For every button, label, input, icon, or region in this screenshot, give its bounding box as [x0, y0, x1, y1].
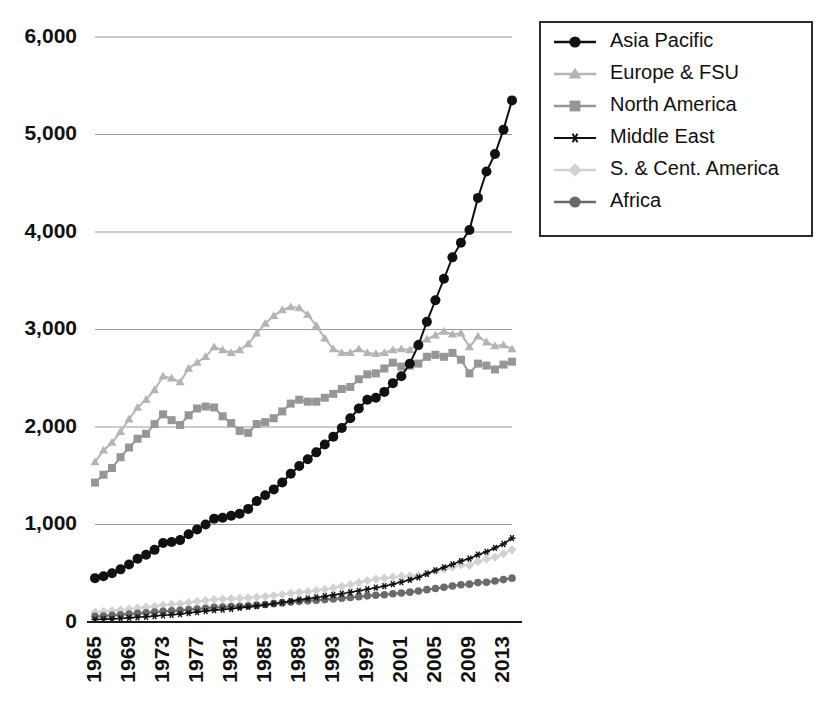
data-point-marker: [490, 149, 500, 159]
data-point-marker: [398, 589, 406, 597]
chart-legend: Asia PacificEurope & FSUNorth AmericaMid…: [540, 22, 812, 236]
data-point-marker: [90, 573, 100, 583]
data-point-marker: [218, 513, 228, 523]
data-point-marker: [227, 594, 236, 603]
series-africa: [91, 574, 516, 620]
data-point-marker: [193, 404, 201, 412]
data-point-marker: [456, 238, 466, 248]
data-point-marker: [193, 358, 202, 366]
data-point-marker: [499, 361, 507, 369]
data-point-marker: [481, 167, 491, 177]
x-axis-tick-label: 2013: [490, 636, 513, 683]
data-point-marker: [227, 419, 235, 427]
data-point-marker: [473, 332, 482, 340]
data-point-marker: [107, 568, 117, 578]
data-point-marker: [491, 577, 499, 585]
data-point-marker: [158, 538, 168, 548]
data-point-marker: [270, 414, 278, 422]
x-axis-tick-label: 1969: [116, 636, 139, 683]
data-point-marker: [355, 593, 363, 601]
data-point-marker: [473, 557, 482, 566]
x-axis-tick-label: 1965: [82, 636, 105, 683]
data-point-marker: [474, 579, 482, 587]
data-point-marker: [329, 595, 337, 603]
data-point-marker: [329, 583, 338, 592]
data-point-marker: [193, 597, 202, 606]
data-point-marker: [261, 418, 269, 426]
data-point-marker: [499, 549, 508, 558]
data-point-marker: [201, 596, 210, 605]
data-point-marker: [320, 440, 330, 450]
x-axis-tick-label: 2005: [422, 636, 445, 683]
data-point-marker: [354, 578, 363, 587]
data-point-marker: [449, 582, 457, 590]
series-s-cent-america: [90, 545, 516, 617]
data-point-marker: [371, 393, 381, 403]
data-point-marker: [379, 387, 389, 397]
data-point-marker: [117, 453, 125, 461]
data-point-marker: [362, 395, 372, 405]
data-point-marker: [570, 101, 581, 112]
data-point-marker: [295, 396, 303, 404]
data-point-marker: [364, 592, 372, 600]
data-point-marker: [473, 193, 483, 203]
data-point-marker: [235, 509, 245, 519]
x-axis-tick-label: 1973: [150, 636, 173, 683]
data-point-marker: [482, 555, 491, 564]
data-point-marker: [286, 302, 295, 310]
data-point-marker: [397, 572, 406, 581]
data-point-marker: [286, 589, 295, 598]
data-point-marker: [278, 590, 287, 599]
data-point-marker: [363, 370, 371, 378]
data-point-marker: [124, 559, 134, 569]
data-point-marker: [158, 372, 167, 380]
data-point-marker: [372, 369, 380, 377]
data-point-marker: [372, 585, 379, 591]
data-point-marker: [269, 311, 278, 319]
data-point-marker: [261, 592, 270, 601]
data-point-marker: [210, 404, 218, 412]
data-point-marker: [278, 407, 286, 415]
data-point-marker: [338, 385, 346, 393]
data-point-marker: [218, 594, 227, 603]
y-axis-tick-label: 0: [65, 609, 77, 632]
y-axis-tick-labels: 01,0002,0003,0004,0005,0006,000: [24, 24, 77, 632]
data-point-marker: [423, 586, 431, 594]
y-axis-tick-label: 2,000: [24, 414, 77, 437]
data-point-marker: [303, 454, 313, 464]
data-point-marker: [286, 469, 296, 479]
data-point-marker: [440, 353, 448, 361]
legend-label: Asia Pacific: [610, 29, 713, 51]
y-axis-tick-label: 3,000: [24, 316, 77, 339]
data-point-marker: [380, 365, 388, 373]
data-point-marker: [243, 504, 253, 514]
data-point-marker: [499, 341, 508, 349]
data-point-marker: [287, 400, 295, 408]
data-point-marker: [277, 478, 287, 488]
data-point-marker: [328, 432, 338, 442]
legend-label: North America: [610, 93, 738, 115]
line-chart: 01,0002,0003,0004,0005,0006,000 19651969…: [0, 0, 817, 704]
data-point-marker: [389, 359, 397, 367]
data-point-marker: [159, 410, 167, 418]
data-point-marker: [312, 586, 321, 595]
data-point-marker: [482, 362, 490, 370]
legend-label: S. & Cent. America: [610, 157, 780, 179]
data-point-marker: [491, 545, 498, 551]
data-point-marker: [167, 537, 177, 547]
data-point-marker: [202, 403, 210, 411]
data-point-marker: [210, 595, 219, 604]
x-axis-tick-label: 1997: [354, 636, 377, 683]
data-point-marker: [269, 591, 278, 600]
data-point-marker: [507, 545, 516, 554]
data-point-marker: [346, 580, 355, 589]
data-point-marker: [396, 371, 406, 381]
data-point-marker: [91, 479, 99, 487]
data-point-marker: [329, 390, 337, 398]
x-axis-tick-label: 2001: [388, 636, 411, 683]
data-point-marker: [150, 545, 160, 555]
data-point-marker: [569, 36, 580, 47]
data-point-marker: [184, 529, 194, 539]
data-point-marker: [389, 590, 397, 598]
legend-label: Africa: [610, 189, 662, 211]
